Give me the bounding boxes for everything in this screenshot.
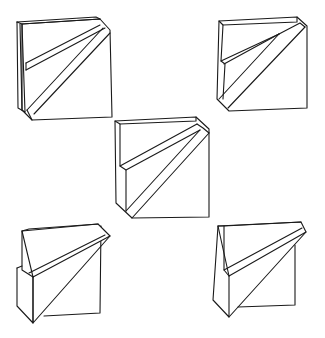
block-bottom-right [213, 222, 306, 317]
block-bottom-left [17, 224, 110, 323]
figure-canvas [0, 0, 325, 338]
block-top-left [17, 17, 112, 120]
block-center [115, 117, 209, 218]
block-top-right [217, 17, 307, 111]
